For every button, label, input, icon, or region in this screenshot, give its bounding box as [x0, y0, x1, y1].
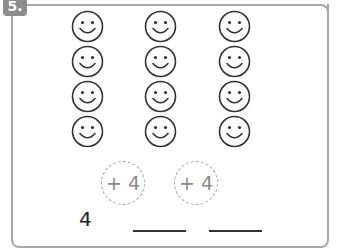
smiley-face-icon — [71, 115, 104, 148]
smiley-face-icon — [144, 45, 177, 78]
answer-blank-2[interactable] — [209, 230, 262, 232]
step-label: + 4 — [179, 172, 213, 194]
exercise-number-badge: 5. — [3, 0, 27, 16]
smiley-face-icon — [71, 80, 104, 113]
smiley-face-icon — [71, 10, 104, 43]
smiley-face-icon — [218, 115, 251, 148]
smiley-face-icon — [144, 80, 177, 113]
step-circle-1: + 4 — [101, 161, 145, 205]
smiley-face-icon — [218, 45, 251, 78]
step-label: + 4 — [106, 172, 140, 194]
smiley-face-icon — [218, 10, 251, 43]
sequence-start-number: 4 — [79, 207, 92, 231]
answer-blank-1[interactable] — [133, 230, 186, 232]
smiley-face-icon — [144, 10, 177, 43]
smiley-face-icon — [218, 80, 251, 113]
smiley-face-icon — [71, 45, 104, 78]
smiley-face-icon — [144, 115, 177, 148]
step-circle-2: + 4 — [174, 161, 218, 205]
